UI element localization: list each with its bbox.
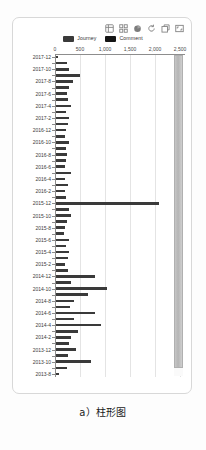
x-tick-label: 0	[54, 45, 57, 54]
y-tick-mark	[52, 197, 55, 198]
y-tick-mark	[52, 112, 55, 113]
bar[interactable]	[56, 324, 101, 327]
y-tick-mark	[52, 264, 55, 265]
bar[interactable]	[56, 354, 68, 357]
bar[interactable]	[56, 312, 95, 315]
bar[interactable]	[56, 263, 65, 266]
bar[interactable]	[56, 342, 69, 345]
bar[interactable]	[56, 123, 68, 126]
y-tick-label: 2016-6	[35, 164, 51, 169]
legend-item-comment[interactable]: Comment	[105, 36, 142, 42]
bar[interactable]	[56, 251, 69, 254]
legend-label-comment: Comment	[119, 36, 142, 41]
y-tick-mark	[52, 209, 55, 210]
y-tick-label: 2014-8	[35, 298, 51, 303]
y-tick-mark	[52, 289, 55, 290]
bar[interactable]	[56, 147, 66, 150]
legend-swatch-journey	[63, 36, 74, 42]
bar[interactable]	[56, 56, 58, 59]
chart-toolbox[interactable]	[105, 24, 184, 33]
y-tick-mark	[52, 155, 55, 156]
bar[interactable]	[56, 74, 80, 77]
y-tick-mark	[52, 94, 55, 95]
data-view-icon[interactable]	[105, 24, 114, 33]
bar[interactable]	[56, 80, 73, 83]
bar[interactable]	[56, 159, 66, 162]
bar[interactable]	[56, 202, 159, 205]
chart-legend[interactable]: Journey Comment	[13, 36, 192, 42]
y-tick-mark	[52, 179, 55, 180]
y-tick-label: 2015-12	[33, 201, 51, 206]
y-tick-label: 2015-10	[33, 213, 51, 218]
bar[interactable]	[56, 336, 71, 339]
bar[interactable]	[56, 184, 68, 187]
bar[interactable]	[56, 117, 69, 120]
y-tick-mark	[52, 203, 55, 204]
bar[interactable]	[56, 360, 91, 363]
bar[interactable]	[56, 239, 69, 242]
bar[interactable]	[56, 214, 71, 217]
chart-panel: Journey Comment 05001,0001,5002,0002,500…	[12, 17, 192, 394]
pie-chart-icon[interactable]	[133, 24, 142, 33]
y-tick-mark	[52, 191, 55, 192]
y-tick-mark	[52, 142, 55, 143]
bar[interactable]	[56, 281, 71, 284]
bar[interactable]	[56, 318, 74, 321]
bar[interactable]	[56, 68, 69, 71]
bar[interactable]	[56, 172, 71, 175]
bar[interactable]	[56, 330, 78, 333]
y-tick-label: 2014-2	[35, 335, 51, 340]
bar[interactable]	[56, 141, 69, 144]
y-tick-mark	[52, 307, 55, 308]
bar[interactable]	[56, 86, 69, 89]
bar[interactable]	[56, 98, 68, 101]
y-tick-mark	[52, 295, 55, 296]
bar[interactable]	[56, 245, 66, 248]
bar[interactable]	[56, 62, 67, 65]
bar[interactable]	[56, 226, 65, 229]
bar[interactable]	[56, 190, 65, 193]
bar[interactable]	[56, 306, 70, 309]
y-tick-mark	[52, 75, 55, 76]
bar[interactable]	[56, 129, 66, 132]
y-tick-mark	[52, 246, 55, 247]
refresh-icon[interactable]	[147, 24, 156, 33]
bar[interactable]	[56, 367, 67, 370]
bar[interactable]	[56, 275, 95, 278]
figure-container: Journey Comment 05001,0001,5002,0002,500…	[0, 0, 206, 450]
bar[interactable]	[56, 208, 69, 211]
restore-icon[interactable]	[161, 24, 170, 33]
bar[interactable]	[56, 111, 66, 114]
bar[interactable]	[56, 232, 64, 235]
y-tick-mark	[52, 88, 55, 89]
grid-icon[interactable]	[119, 24, 128, 33]
y-tick-mark	[52, 173, 55, 174]
y-tick-mark	[52, 106, 55, 107]
y-tick-label: 2014-10	[33, 286, 51, 291]
fullscreen-icon[interactable]	[175, 24, 184, 33]
bar[interactable]	[56, 348, 76, 351]
bar[interactable]	[56, 220, 67, 223]
y-tick-label: 2017-6	[35, 91, 51, 96]
bar[interactable]	[56, 178, 65, 181]
legend-item-journey[interactable]: Journey	[63, 36, 96, 42]
bar[interactable]	[56, 135, 65, 138]
vertical-scrollbar-thumb[interactable]	[174, 55, 183, 368]
bar[interactable]	[56, 196, 66, 199]
y-tick-mark	[52, 124, 55, 125]
bar[interactable]	[56, 269, 68, 272]
bar[interactable]	[56, 92, 67, 95]
y-tick-mark	[52, 69, 55, 70]
y-tick-mark	[52, 234, 55, 235]
bar[interactable]	[56, 165, 65, 168]
x-tick-label: 500	[76, 45, 84, 54]
bar[interactable]	[56, 257, 68, 260]
bar[interactable]	[56, 293, 88, 296]
bar[interactable]	[56, 373, 59, 376]
y-tick-mark	[52, 313, 55, 314]
y-tick-mark	[52, 343, 55, 344]
bar[interactable]	[56, 287, 107, 290]
bar[interactable]	[56, 300, 74, 303]
bar[interactable]	[56, 153, 67, 156]
bar[interactable]	[56, 105, 71, 108]
